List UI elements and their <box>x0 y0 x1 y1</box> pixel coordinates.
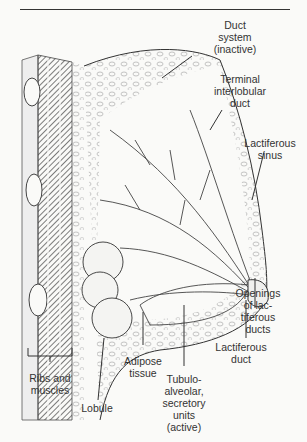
label-duct-system: Duct system (inactive) <box>205 19 265 55</box>
label-lobule: Lobule <box>74 402 120 414</box>
label-tubulo-alveolar-units: Tubulo- alveolar, secretory units (activ… <box>154 373 214 433</box>
label-lactiferous-duct: Lactiferous duct <box>208 341 274 365</box>
ribs-muscles-layer <box>22 55 72 420</box>
label-terminal-interlobular-duct: Terminal interlobular duct <box>200 73 280 109</box>
label-adipose-tissue: Adipose tissue <box>115 355 171 379</box>
label-openings-of-lactiferous-ducts: Openings of lac- tiferous ducts <box>227 287 289 335</box>
label-lactiferous-sinus: Lactiferous sinus <box>235 137 305 161</box>
label-ribs-and-muscles: Ribs and muscles <box>18 372 82 396</box>
